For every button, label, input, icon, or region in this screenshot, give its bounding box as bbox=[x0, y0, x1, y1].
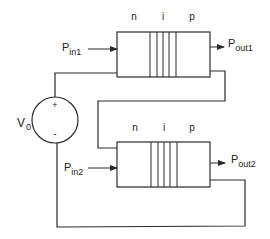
wire-device-1-to-device-2 bbox=[98, 71, 225, 148]
device-1-label-p: p bbox=[189, 11, 195, 22]
device-2: n i p Pin2 Pout2 bbox=[64, 122, 256, 187]
device-1-intrinsic-layers bbox=[150, 32, 176, 77]
device-1-label-n: n bbox=[131, 11, 137, 22]
voltage-source: + - V0 bbox=[17, 97, 78, 143]
device-2-input-label: Pin2 bbox=[64, 161, 83, 177]
circuit-diagram: + - V0 n i p Pin1 Pout1 bbox=[0, 0, 270, 239]
device-2-label-p: p bbox=[189, 122, 195, 133]
device-2-intrinsic-layers bbox=[151, 142, 177, 187]
device-1: n i p Pin1 Pout1 bbox=[62, 11, 253, 77]
device-1-input-label: Pin1 bbox=[62, 41, 81, 57]
source-plus-sign: + bbox=[52, 100, 57, 110]
device-1-label-i: i bbox=[162, 11, 164, 22]
device-2-label-i: i bbox=[163, 122, 165, 133]
source-minus-sign: - bbox=[53, 128, 56, 139]
device-2-output-label: Pout2 bbox=[231, 153, 256, 169]
wire-source-to-device-1 bbox=[55, 73, 117, 97]
device-2-label-n: n bbox=[132, 122, 138, 133]
source-label: V0 bbox=[17, 116, 31, 132]
device-1-output-label: Pout1 bbox=[228, 37, 253, 53]
wires bbox=[55, 71, 245, 227]
